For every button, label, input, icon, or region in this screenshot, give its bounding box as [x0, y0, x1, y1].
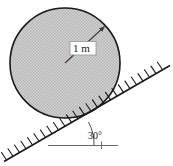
cylinder-on-incline-figure: 1 m 30°	[0, 0, 173, 166]
diagram-canvas: 1 m 30°	[0, 0, 173, 166]
radius-label-group: 1 m	[70, 42, 96, 56]
angle-label: 30°	[88, 130, 102, 141]
radius-label: 1 m	[73, 42, 90, 54]
